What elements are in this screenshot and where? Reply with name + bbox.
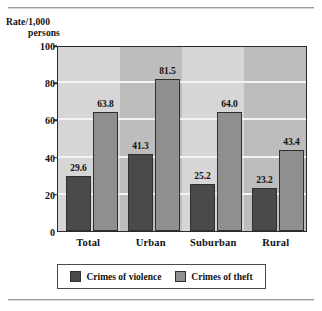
legend-swatch-violence [70, 271, 81, 282]
bar-value-rural-theft: 43.4 [283, 137, 300, 147]
bar-group-urban: 41.381.5 [120, 47, 182, 231]
bar-suburban-theft[interactable]: 64.0 [217, 112, 242, 231]
bar-rural-violence[interactable]: 23.2 [252, 188, 277, 231]
x-axis-labels: TotalUrbanSuburbanRural [57, 237, 307, 253]
y-tick-label-80: 80 [0, 78, 55, 89]
bar-suburban-violence[interactable]: 25.2 [190, 184, 215, 231]
y-axis-title: Rate/1,000 persons [6, 17, 98, 39]
x-axis-label-total: Total [57, 237, 120, 248]
x-axis-label-urban: Urban [120, 237, 183, 248]
bar-urban-theft[interactable]: 81.5 [155, 79, 180, 231]
x-axis-label-rural: Rural [245, 237, 308, 248]
bar-value-rural-violence: 23.2 [256, 175, 273, 185]
bar-total-violence[interactable]: 29.6 [66, 176, 91, 231]
bar-group-suburban: 25.264.0 [182, 47, 244, 231]
bar-rural-theft[interactable]: 43.4 [279, 150, 304, 231]
y-tick-label-60: 60 [0, 115, 55, 126]
y-tick-label-100: 100 [0, 41, 55, 52]
bar-total-theft[interactable]: 63.8 [93, 112, 118, 231]
x-axis-label-suburban: Suburban [182, 237, 245, 248]
legend-label-theft: Crimes of theft [191, 272, 252, 282]
bar-group-total: 29.663.8 [58, 47, 120, 231]
y-tick-label-40: 40 [0, 152, 55, 163]
y-axis-title-line2: persons [6, 28, 98, 39]
plot-area: 29.663.841.381.525.264.023.243.4 [57, 46, 307, 232]
bar-value-total-theft: 63.8 [97, 99, 114, 109]
legend-swatch-theft [175, 271, 186, 282]
legend-item-theft: Crimes of theft [175, 271, 252, 282]
bar-group-rural: 23.243.4 [244, 47, 306, 231]
bar-value-total-violence: 29.6 [70, 163, 87, 173]
bar-value-suburban-violence: 25.2 [194, 171, 211, 181]
bar-value-suburban-theft: 64.0 [221, 99, 238, 109]
chart-legend: Crimes of violence Crimes of theft [57, 264, 266, 289]
y-tick-label-0: 0 [0, 227, 55, 238]
y-axis-title-line1: Rate/1,000 [6, 17, 98, 28]
legend-item-violence: Crimes of violence [70, 271, 161, 282]
top-divider-rule [8, 7, 314, 9]
bar-series-container: 29.663.841.381.525.264.023.243.4 [58, 47, 306, 231]
bar-value-urban-violence: 41.3 [132, 141, 149, 151]
legend-label-violence: Crimes of violence [86, 272, 161, 282]
bar-value-urban-theft: 81.5 [159, 66, 176, 76]
y-tick-label-20: 20 [0, 189, 55, 200]
bottom-divider-rule [8, 299, 314, 301]
bar-chart-figure: Rate/1,000 persons 020406080100 29.663.8… [0, 0, 322, 311]
bar-urban-violence[interactable]: 41.3 [128, 154, 153, 231]
